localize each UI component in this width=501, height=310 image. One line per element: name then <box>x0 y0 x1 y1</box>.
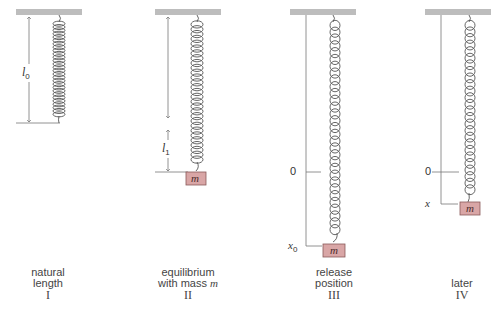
mass-label: m <box>330 244 338 256</box>
ceiling <box>290 9 356 15</box>
zero-label: 0 <box>290 165 296 177</box>
caption-panel-iv: later IV <box>407 278 501 301</box>
spring-coil <box>53 21 65 117</box>
label-x: x <box>425 197 430 209</box>
panel-ii-equilibrium <box>155 9 221 185</box>
ceiling <box>155 9 221 15</box>
zero-label: 0 <box>425 165 431 177</box>
panel-iv-later <box>425 9 491 215</box>
label-x0: x0 <box>288 239 297 254</box>
spring-coil <box>465 20 475 194</box>
caption-panel-i: natural length I <box>0 267 103 301</box>
spring-coil <box>330 20 340 234</box>
ceiling <box>16 9 82 15</box>
spring-coil <box>191 21 203 163</box>
spring-mass-diagram <box>0 0 501 310</box>
label-l1: l1 <box>162 140 170 158</box>
caption-panel-iii: release position III <box>279 267 389 301</box>
panel-iii-release <box>290 9 356 257</box>
mass-label: m <box>191 172 199 184</box>
label-l0: l0 <box>22 64 30 82</box>
caption-panel-ii: equilibrium with mass m II <box>133 267 243 301</box>
ceiling <box>425 9 491 15</box>
mass-label: m <box>466 202 474 214</box>
